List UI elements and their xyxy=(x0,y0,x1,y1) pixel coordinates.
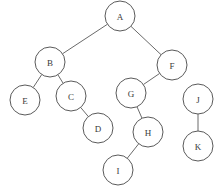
edge-a-f xyxy=(131,26,161,54)
node-k: K xyxy=(183,131,213,161)
node-label: C xyxy=(68,92,74,102)
node-g: G xyxy=(116,78,146,108)
node-label: A xyxy=(117,12,124,22)
node-label: E xyxy=(22,96,28,106)
node-d: D xyxy=(83,113,113,143)
node-c: C xyxy=(56,81,86,111)
node-label: J xyxy=(196,95,200,105)
edge-c-d xyxy=(81,107,89,116)
node-label: H xyxy=(145,128,152,138)
edge-g-h xyxy=(137,107,142,118)
node-label: D xyxy=(95,124,102,134)
node-h: H xyxy=(133,117,163,147)
edge-h-i xyxy=(127,144,138,158)
node-j: J xyxy=(183,84,213,114)
edge-b-e xyxy=(33,75,42,88)
node-label: B xyxy=(47,58,53,68)
node-b: B xyxy=(35,47,65,77)
edge-f-g xyxy=(143,73,159,84)
node-label: K xyxy=(195,142,202,152)
edge-b-c xyxy=(58,75,63,83)
tree-diagram: ABFECDGHIJK xyxy=(0,0,221,191)
edge-a-b xyxy=(63,24,108,54)
node-e: E xyxy=(10,85,40,115)
node-a: A xyxy=(105,1,135,31)
node-label: I xyxy=(117,166,120,176)
nodes-layer: ABFECDGHIJK xyxy=(10,1,213,185)
node-f: F xyxy=(157,50,187,80)
node-i: I xyxy=(103,155,133,185)
node-label: F xyxy=(169,61,174,71)
node-label: G xyxy=(128,89,135,99)
